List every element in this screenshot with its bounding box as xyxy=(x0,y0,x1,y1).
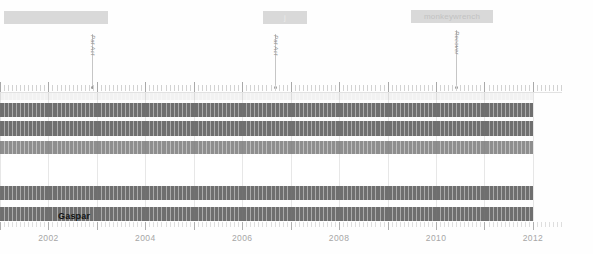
ruler-tick xyxy=(149,85,150,91)
axis-tick xyxy=(258,222,259,227)
ruler-tick xyxy=(319,85,320,91)
gridline xyxy=(266,93,267,221)
gridline xyxy=(424,93,425,221)
axis-tick xyxy=(489,222,490,227)
ruler-tick xyxy=(509,85,510,91)
axis-tick xyxy=(424,222,425,227)
row-label-gaspar[interactable]: Gaspar xyxy=(58,211,90,221)
gridline xyxy=(319,93,320,221)
ruler-tick xyxy=(4,85,5,91)
axis-tick xyxy=(315,222,316,227)
axis-tick xyxy=(279,222,280,227)
ruler-tick xyxy=(214,85,215,91)
axis-tick xyxy=(404,222,405,227)
gridline xyxy=(347,93,348,221)
ruler-tick xyxy=(557,85,558,91)
ruler-tick xyxy=(561,85,562,91)
axis-tick xyxy=(250,222,251,227)
gridline xyxy=(214,93,215,221)
ruler-tick xyxy=(137,85,138,91)
ruler-tick xyxy=(493,85,494,91)
ruler-tick xyxy=(396,85,397,91)
ruler-tick xyxy=(549,85,550,91)
axis-year-label: 2012 xyxy=(523,233,544,243)
ruler-tick xyxy=(432,85,433,91)
ruler-tick xyxy=(307,85,308,91)
ruler-tick xyxy=(210,85,211,91)
ruler-tick xyxy=(161,85,162,91)
ruler-tick xyxy=(412,85,413,91)
gridline-major xyxy=(48,93,49,221)
gridline xyxy=(234,93,235,221)
gridline xyxy=(557,93,558,221)
ruler-tick xyxy=(198,85,199,91)
ruler-tick xyxy=(525,85,526,91)
axis-tick xyxy=(497,222,498,227)
gridline xyxy=(117,93,118,221)
gridline xyxy=(456,93,457,221)
gridline xyxy=(351,93,352,221)
gridline xyxy=(517,93,518,221)
gridline xyxy=(44,93,45,221)
gridline xyxy=(561,93,562,221)
gridline xyxy=(343,93,344,221)
gridline xyxy=(198,93,199,221)
ruler-tick xyxy=(69,85,70,91)
axis-tick xyxy=(117,222,118,227)
axis-tick xyxy=(420,222,421,227)
gridline xyxy=(101,93,102,221)
ruler-tick xyxy=(202,85,203,91)
axis-tick xyxy=(73,222,74,227)
axis-tick xyxy=(517,222,518,227)
gridline xyxy=(105,93,106,221)
ruler-tick xyxy=(28,85,29,91)
axis-tick xyxy=(81,222,82,227)
annotation-chip[interactable] xyxy=(4,11,108,24)
axis-tick xyxy=(85,222,86,227)
axis-tick xyxy=(468,222,469,227)
gridline xyxy=(432,93,433,221)
axis-tick xyxy=(20,222,21,227)
axis-tick xyxy=(384,222,385,227)
annotation-chip[interactable]: monkeywrench xyxy=(411,10,493,23)
ruler-tick xyxy=(380,85,381,91)
gridline xyxy=(85,93,86,221)
gridline-major xyxy=(194,93,195,221)
gridline xyxy=(174,93,175,221)
gridline xyxy=(24,93,25,221)
gridline xyxy=(149,93,150,221)
gridline xyxy=(428,93,429,221)
ruler-tick xyxy=(125,85,126,91)
gridline xyxy=(121,93,122,221)
ruler-tick-major xyxy=(145,82,146,92)
axis-tick xyxy=(109,222,110,227)
marker-label: Pat Act xyxy=(273,35,279,56)
gridline xyxy=(331,93,332,221)
ruler-tick xyxy=(222,85,223,91)
ruler-tick xyxy=(166,85,167,91)
gridline xyxy=(129,93,130,221)
gridline xyxy=(73,93,74,221)
axis-tick xyxy=(396,222,397,227)
ruler-tick xyxy=(553,85,554,91)
time-axis: 200220042006200820102012 xyxy=(0,222,593,254)
ruler-tick-major xyxy=(0,82,1,92)
axis-tick xyxy=(416,222,417,227)
ruler-tick xyxy=(480,85,481,91)
axis-tick xyxy=(371,222,372,227)
ruler-tick xyxy=(303,85,304,91)
ruler-tick xyxy=(254,85,255,91)
gridline-major xyxy=(291,93,292,221)
gridline xyxy=(476,93,477,221)
axis-tick xyxy=(57,222,58,227)
ruler-tick xyxy=(444,85,445,91)
gridline xyxy=(36,93,37,221)
gridline xyxy=(230,93,231,221)
ruler-tick xyxy=(73,85,74,91)
axis-tick-major xyxy=(484,222,485,230)
axis-tick xyxy=(448,222,449,227)
gridline xyxy=(307,93,308,221)
ruler-tick xyxy=(428,85,429,91)
ruler-tick xyxy=(408,85,409,91)
annotation-chip[interactable]: j xyxy=(263,11,307,24)
